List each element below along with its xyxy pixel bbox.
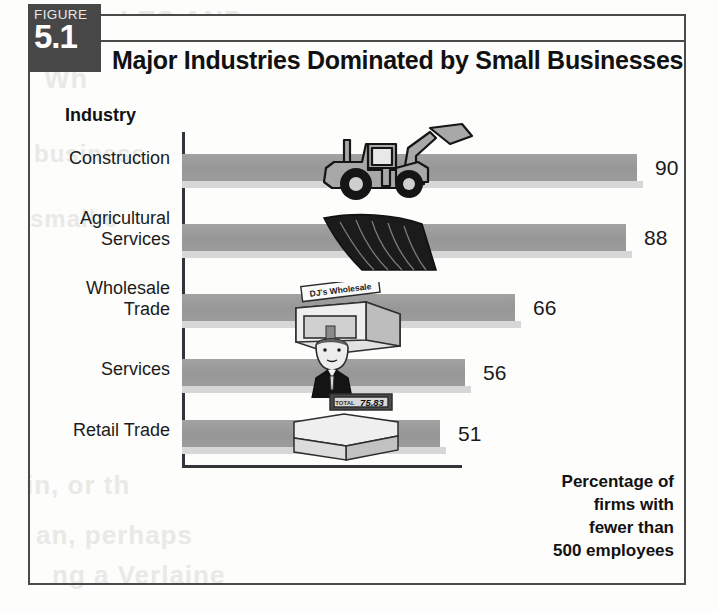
figure-badge-number: 5.1 xyxy=(34,20,101,54)
cash-register-illustration: 75.83 TOTAL xyxy=(288,392,413,464)
bar-value-label: 56 xyxy=(483,361,506,385)
figure-5-1: LES AND Wh business small c in, or th an… xyxy=(0,0,718,613)
category-label: Services xyxy=(101,359,170,380)
category-label: Agricultural Services xyxy=(80,208,170,250)
register-total-label: TOTAL xyxy=(335,400,355,406)
backhoe-loader-illustration xyxy=(312,122,492,204)
figure-title: Major Industries Dominated by Small Busi… xyxy=(112,46,683,75)
title-rule xyxy=(101,40,686,42)
bar-value-label: 90 xyxy=(655,156,678,180)
title-mask xyxy=(101,16,684,39)
register-display-text: 75.83 xyxy=(360,397,384,408)
bar-value-label: 66 xyxy=(533,296,556,320)
bar-value-label: 88 xyxy=(644,226,667,250)
x-axis-caption: Percentage of firms with fewer than 500 … xyxy=(553,470,674,562)
category-label: Retail Trade xyxy=(73,420,170,441)
businessman-illustration xyxy=(286,336,378,398)
y-axis-title: Industry xyxy=(65,105,136,126)
plow-blade-illustration xyxy=(318,208,448,280)
category-label: Construction xyxy=(69,148,170,169)
category-label: Wholesale Trade xyxy=(86,278,170,320)
figure-badge: FIGURE 5.1 xyxy=(28,4,101,72)
bar-value-label: 51 xyxy=(458,422,481,446)
